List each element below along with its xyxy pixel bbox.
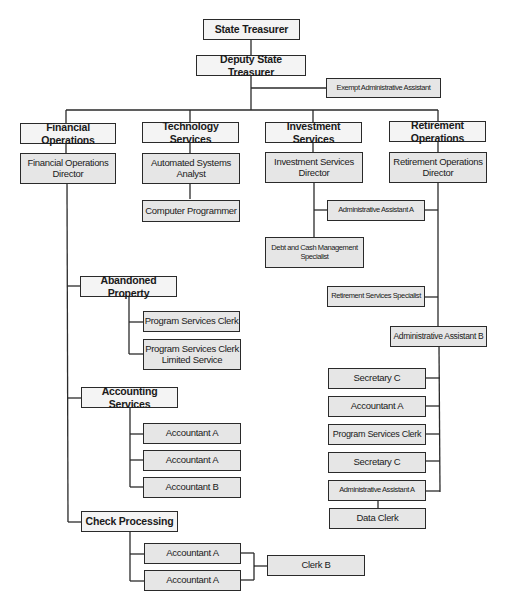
node-administrative-assistant-a-retirement: Administrative Assistant A [328, 480, 426, 501]
node-accountant-a-check-1: Accountant A [144, 543, 241, 564]
node-program-services-clerk-retirement: Program Services Clerk [328, 424, 426, 445]
node-retirement-services-specialist: Retirement Services Specialist [327, 286, 425, 307]
node-investment-services: Investment Services [265, 122, 362, 143]
node-financial-operations-director: Financial Operations Director [20, 153, 116, 184]
node-clerk-b: Clerk B [267, 555, 365, 576]
node-investment-services-director: Investment Services Director [265, 152, 363, 183]
node-program-services-clerk-limited: Program Services Clerk Limited Service [143, 339, 241, 370]
node-accountant-a-1: Accountant A [143, 423, 241, 444]
node-automated-systems-analyst: Automated Systems Analyst [142, 153, 240, 184]
node-retirement-operations-director: Retirement Operations Director [389, 152, 487, 183]
node-accountant-b: Accountant B [143, 477, 241, 498]
node-accountant-a-check-2: Accountant A [144, 570, 241, 591]
node-secretary-c-2: Secretary C [328, 452, 426, 473]
node-abandoned-property: Abandoned Property [80, 276, 177, 297]
node-deputy-state-treasurer: Deputy State Treasurer [196, 55, 306, 76]
node-administrative-assistant-a-investment: Administrative Assistant A [327, 200, 425, 221]
node-state-treasurer: State Treasurer [203, 19, 300, 40]
node-accountant-a-2: Accountant A [143, 450, 241, 471]
node-computer-programmer: Computer Programmer [142, 200, 240, 222]
node-debt-cash-management-specialist: Debt and Cash Management Specialist [265, 237, 364, 268]
node-financial-operations: Financial Operations [20, 123, 116, 144]
node-secretary-c-1: Secretary C [328, 368, 426, 389]
node-accounting-services: Accounting Services [81, 387, 178, 408]
node-program-services-clerk-ap: Program Services Clerk [143, 311, 240, 332]
node-data-clerk: Data Clerk [329, 508, 426, 529]
node-accountant-a-retirement: Accountant A [328, 396, 426, 417]
node-administrative-assistant-b: Administrative Assistant B [390, 326, 487, 347]
node-retirement-operations: Retirement Operations [389, 121, 486, 142]
node-exempt-administrative-assistant: Exempt Administrative Assistant [326, 78, 441, 98]
node-check-processing: Check Processing [81, 511, 178, 532]
node-technology-services: Technology Services [142, 122, 239, 143]
